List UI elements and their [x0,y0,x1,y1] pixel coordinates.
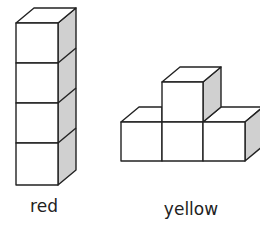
yellow-label: yellow [164,199,218,219]
red-tower [16,8,76,185]
yellow-shape [121,67,260,161]
red-label: red [30,196,58,216]
